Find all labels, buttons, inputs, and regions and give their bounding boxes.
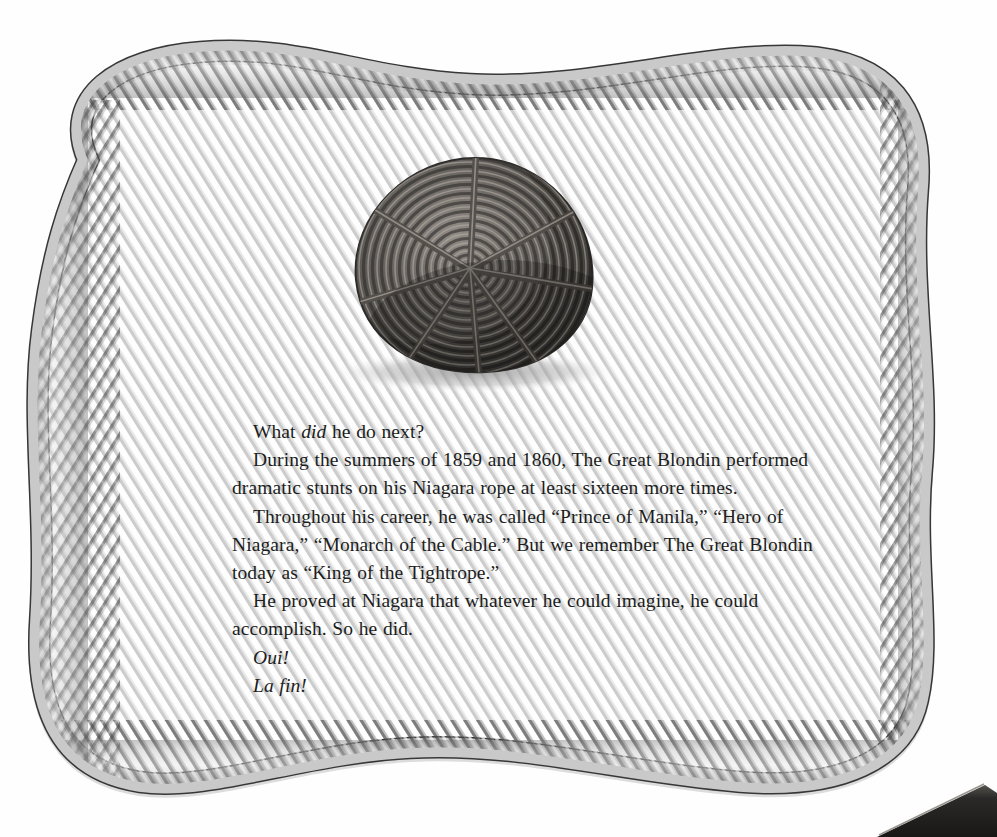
- coiled-rope-illustration: [300, 140, 650, 400]
- text-run: He proved at Niagara that whatever he co…: [232, 590, 758, 639]
- book-edge-corner: [817, 727, 997, 837]
- paragraph-3: Throughout his career, he was called “Pr…: [232, 503, 832, 588]
- body-text: What did he do next? During the summers …: [232, 418, 832, 700]
- book-edge-shape: [877, 785, 997, 837]
- book-edge-highlight: [879, 784, 984, 835]
- text-run: Throughout his career, he was called “Pr…: [232, 506, 813, 583]
- text-run: he do next?: [326, 421, 424, 442]
- paragraph-2: During the summers of 1859 and 1860, The…: [232, 446, 832, 502]
- text-run: What: [253, 421, 301, 442]
- book-page: What did he do next? During the summers …: [0, 0, 997, 837]
- paragraph-5-oui: Oui!: [232, 644, 832, 672]
- text-run: During the summers of 1859 and 1860, The…: [232, 449, 808, 498]
- text-run-italic: did: [301, 421, 326, 442]
- paragraph-6-lafin: La fin!: [232, 672, 832, 700]
- paragraph-1: What did he do next?: [232, 418, 832, 446]
- paragraph-4: He proved at Niagara that whatever he co…: [232, 587, 832, 643]
